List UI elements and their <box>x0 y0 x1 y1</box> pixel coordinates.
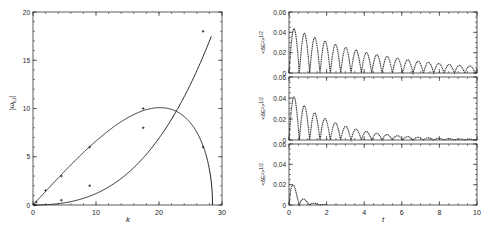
oscillation-curve <box>289 97 477 140</box>
x-tick-label: 2 <box>325 209 329 216</box>
y-tick-label: 0.04 <box>273 161 286 168</box>
left-plot: 010203005101520|ωk,i| <box>8 9 226 217</box>
arch-curve <box>33 108 213 205</box>
x-tick-label: 20 <box>155 209 163 216</box>
y-tick-label: 0.06 <box>273 9 286 16</box>
plot-frame <box>289 144 477 205</box>
data-marker <box>88 184 91 187</box>
right-y-axis-label: <δE²>1/2 <box>259 97 266 120</box>
left-x-axis-label: k <box>126 215 131 224</box>
right-y-axis-label: <δE²>1/2 <box>259 163 266 186</box>
oscillation-curve <box>289 185 326 205</box>
left-y-axis-label: |ωk,i| <box>8 96 17 110</box>
figure: 010203005101520|ωk,i| 00.020.040.06<δE²>… <box>0 0 487 230</box>
plot-frame <box>289 12 477 73</box>
data-marker <box>202 30 205 33</box>
data-marker <box>142 107 145 110</box>
x-tick-label: 0 <box>287 209 291 216</box>
plot-frame <box>289 77 477 140</box>
data-marker <box>142 127 145 130</box>
y-tick-label: 0.02 <box>273 49 286 56</box>
y-tick-label: 0.04 <box>273 95 286 102</box>
bottom-panel: 024681000.020.040.06<δE²>1/2 <box>259 141 481 217</box>
y-tick-label: 20 <box>23 9 31 16</box>
y-tick-label: 0.02 <box>273 116 286 123</box>
y-tick-label: 5 <box>26 153 30 160</box>
x-tick-label: 4 <box>362 209 366 216</box>
x-tick-label: 10 <box>473 209 481 216</box>
y-tick-label: 0.04 <box>273 29 286 36</box>
y-tick-label: 0 <box>26 202 30 209</box>
y-tick-label: 0.06 <box>273 141 286 148</box>
x-tick-label: 30 <box>218 209 226 216</box>
y-tick-label: 15 <box>23 57 31 64</box>
oscillation-curve <box>289 29 477 73</box>
right-x-axis-label: t <box>382 215 385 224</box>
x-tick-label: 0 <box>31 209 35 216</box>
right-plots: 00.020.040.06<δE²>1/200.020.040.06<δE²>1… <box>259 9 481 217</box>
data-marker <box>60 199 63 202</box>
x-tick-label: 6 <box>400 209 404 216</box>
data-marker <box>44 189 47 192</box>
middle-panel: 00.020.040.06<δE²>1/2 <box>259 74 477 144</box>
x-tick-label: 10 <box>92 209 100 216</box>
y-tick-label: 10 <box>23 105 31 112</box>
y-tick-label: 0.02 <box>273 181 286 188</box>
y-tick-label: 0 <box>282 202 286 209</box>
x-tick-label: 8 <box>437 209 441 216</box>
y-tick-label: 0.06 <box>273 74 286 81</box>
top-panel: 00.020.040.06<δE²>1/2 <box>259 9 477 77</box>
right-y-axis-label: <δE²>1/2 <box>259 31 266 54</box>
